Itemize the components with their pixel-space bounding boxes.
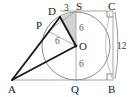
measure-label-bc: 12 [117, 41, 127, 51]
figure-canvas: A B C D S Q O P 3 6 6 6 12 [0, 0, 130, 97]
point-markers [75, 45, 78, 48]
point-dot-o [75, 45, 78, 48]
measure-label-po: 6 [55, 36, 60, 46]
vertex-label-p: P [36, 19, 42, 31]
segment-a-o [12, 46, 76, 80]
vertex-label-o: O [79, 40, 87, 52]
vertex-label-d: D [48, 5, 56, 17]
vertex-label-q: Q [71, 83, 79, 95]
measure-label-so: 6 [79, 23, 84, 33]
geometry-figure: A B C D S Q O P 3 6 6 6 12 [0, 0, 130, 97]
vertex-label-a: A [8, 83, 16, 95]
vertex-label-s: S [76, 0, 82, 12]
measure-label-oq: 6 [79, 59, 84, 69]
vertex-label-c: C [108, 0, 115, 12]
arc-icon-corner-sweep [105, 13, 112, 78]
right-angle-icon-b [107, 74, 113, 80]
vertex-label-b: B [108, 83, 115, 95]
measure-label-ds: 3 [64, 3, 69, 13]
